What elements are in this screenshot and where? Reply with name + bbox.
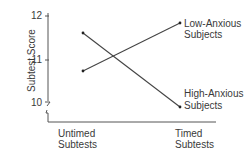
axis-break-mark bbox=[45, 102, 50, 106]
y-tick-label-11: 11 bbox=[22, 55, 42, 65]
point-low-untimed bbox=[82, 70, 85, 73]
legend-high-anxious-line1: High-Anxious bbox=[184, 88, 243, 99]
point-high-timed bbox=[179, 106, 182, 109]
point-low-timed bbox=[179, 22, 182, 25]
x-label-untimed-line2: Subtests bbox=[58, 139, 97, 150]
y-tick-label-10: 10 bbox=[22, 98, 42, 108]
series-high-anxious-line bbox=[83, 33, 180, 107]
y-tick-label-12: 12 bbox=[22, 11, 42, 21]
axis-break-lower bbox=[46, 110, 48, 122]
x-label-timed-line2: Subtests bbox=[175, 139, 214, 150]
legend-low-anxious-line1: Low-Anxious bbox=[184, 18, 241, 29]
series-low-anxious-line bbox=[83, 23, 180, 71]
legend-high-anxious-line2: Subjects bbox=[184, 100, 222, 111]
point-high-untimed bbox=[82, 32, 85, 35]
x-label-timed-line1: Timed bbox=[175, 128, 202, 139]
legend-low-anxious-line2: Subjects bbox=[184, 29, 222, 40]
x-label-untimed-line1: Untimed bbox=[58, 128, 95, 139]
